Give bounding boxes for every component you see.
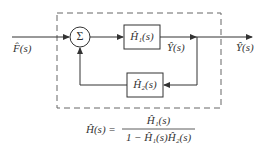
summing-junction-symbol: Σ [73,30,87,42]
formula-lhs: Ĥ(s) = [86,124,116,135]
block-h2-label: Ĥ₂(s) [127,79,163,90]
input-label: F̂(s) [13,43,31,54]
formula-denominator: 1 − Ĥ₁(s)Ĥ₂(s) [122,132,195,143]
inner-output-label: Ŷ(s) [167,42,185,53]
outer-output-label: Ŷ(s) [236,42,254,53]
formula-numerator: Ĥ₁(s) [122,115,195,126]
block-h1-label: Ĥ₁(s) [124,31,160,42]
